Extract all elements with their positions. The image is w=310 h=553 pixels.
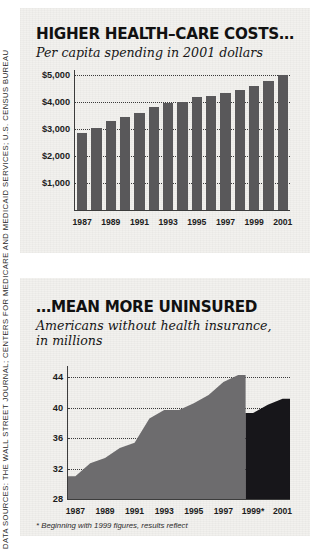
costs-bar (177, 102, 187, 210)
uninsured-chart-title: …MEAN MORE UNINSURED (36, 298, 257, 316)
uninsured-plot-area: 28323640441987198919911993199519971999*2… (68, 366, 290, 499)
costs-bar (134, 113, 144, 210)
uninsured-y-tick: 44 (26, 372, 63, 382)
uninsured-area-revised (246, 399, 290, 499)
costs-bar (91, 128, 101, 210)
costs-bar (192, 97, 202, 210)
costs-bar (106, 121, 116, 210)
uninsured-x-tick: 1999* (242, 506, 264, 516)
costs-x-tick: 1989 (101, 217, 120, 227)
source-credit-text: DATA SOURCES: THE WALL STREET JOURNAL; C… (1, 50, 10, 549)
costs-y-tick: $4,000 (23, 97, 70, 107)
uninsured-chart-subtitle-line2: in millions (36, 334, 102, 348)
uninsured-y-tick: 28 (26, 494, 63, 504)
uninsured-x-tick: 2001 (273, 506, 292, 516)
panel-uninsured: …MEAN MORE UNINSURED Americans without h… (20, 278, 310, 536)
panel-health-care-costs: HIGHER HEALTH–CARE COSTS… Per capita spe… (20, 8, 310, 253)
uninsured-x-tick: 1997 (214, 506, 233, 516)
costs-chart-subtitle: Per capita spending in 2001 dollars (36, 46, 263, 60)
costs-y-axis-line (74, 70, 75, 211)
source-credit-rail: DATA SOURCES: THE WALL STREET JOURNAL; C… (0, 0, 20, 553)
costs-x-tick: 2001 (273, 217, 292, 227)
uninsured-y-tick: 36 (26, 433, 63, 443)
costs-y-tick: $5,000 (23, 70, 70, 80)
costs-y-tick: $2,000 (23, 151, 70, 161)
uninsured-x-tick: 1991 (125, 506, 144, 516)
costs-bar (120, 117, 130, 210)
uninsured-y-tick: 40 (26, 403, 63, 413)
costs-y-tick: $3,000 (23, 124, 70, 134)
costs-bar (235, 90, 245, 210)
costs-bar (77, 133, 87, 210)
costs-x-tick: 1991 (130, 217, 149, 227)
costs-bar (249, 86, 259, 210)
costs-x-axis-line (75, 210, 290, 211)
costs-x-tick: 1993 (159, 217, 178, 227)
uninsured-x-tick: 1995 (184, 506, 203, 516)
costs-bar (220, 93, 230, 210)
uninsured-footnote: * Beginning with 1999 figures, results r… (36, 521, 188, 530)
uninsured-chart-subtitle-line1: Americans without health insurance, (36, 319, 272, 333)
uninsured-x-tick: 1993 (155, 506, 174, 516)
costs-bar (163, 103, 173, 210)
uninsured-x-axis-line (68, 499, 290, 500)
costs-x-tick: 1995 (187, 217, 206, 227)
costs-chart-title: HIGHER HEALTH–CARE COSTS… (36, 25, 294, 43)
costs-x-tick: 1999 (245, 217, 264, 227)
costs-y-tick: $1,000 (23, 178, 70, 188)
costs-x-tick: 1997 (216, 217, 235, 227)
uninsured-area-svg (68, 366, 290, 499)
costs-plot-area: $1,000$2,000$3,000$4,000$5,0001987198919… (75, 70, 290, 210)
costs-bar (278, 75, 288, 210)
costs-bar (206, 96, 216, 210)
uninsured-y-axis-line (67, 366, 68, 500)
costs-bar (149, 107, 159, 210)
uninsured-x-tick: 1987 (66, 506, 85, 516)
costs-bar (263, 81, 273, 210)
costs-x-tick: 1987 (73, 217, 92, 227)
uninsured-y-tick: 32 (26, 464, 63, 474)
uninsured-x-tick: 1989 (95, 506, 114, 516)
uninsured-area-original (68, 375, 246, 499)
costs-gridline (75, 75, 290, 76)
